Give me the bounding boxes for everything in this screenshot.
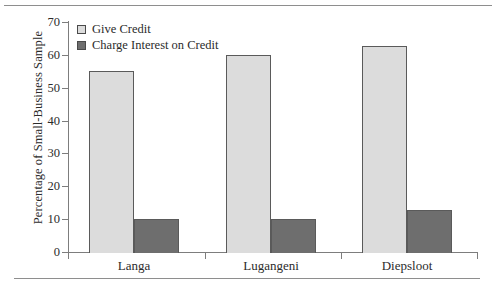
- x-axis-category-label: Lugangeni: [226, 258, 316, 274]
- y-axis-tick-label: 0: [36, 246, 60, 259]
- y-axis-tick-label: 10: [36, 213, 60, 226]
- bar-give-credit-lugangeni: [226, 55, 271, 253]
- y-axis-tick: [62, 153, 69, 154]
- y-axis-tick-label: 30: [36, 147, 60, 160]
- y-axis-tick: [62, 186, 69, 187]
- x-axis-tick: [477, 253, 478, 259]
- x-axis-category-label: Diepsloot: [362, 258, 452, 274]
- y-axis-tick: [62, 121, 69, 122]
- legend-label: Give Credit: [92, 22, 151, 37]
- chart-legend: Give Credit Charge Interest on Credit: [77, 22, 218, 54]
- bar-charge-interest-lugangeni: [271, 219, 316, 253]
- dark-gray-swatch-icon: [77, 41, 86, 50]
- y-axis-tick-label: 20: [36, 180, 60, 193]
- y-axis-tick: [62, 55, 69, 56]
- x-axis-tick: [341, 253, 342, 259]
- bar-charge-interest-langa: [134, 219, 179, 253]
- y-axis-tick-label: 50: [36, 82, 60, 95]
- bar-charge-interest-diepsloot: [407, 210, 452, 253]
- y-axis-tick-label: 40: [36, 115, 60, 128]
- y-axis-tick: [62, 219, 69, 220]
- legend-item-charge-interest-on-credit: Charge Interest on Credit: [77, 38, 218, 53]
- legend-label: Charge Interest on Credit: [92, 38, 218, 53]
- bar-give-credit-langa: [89, 71, 134, 253]
- bar-chart: Percentage of Small-Business Sample 0 10…: [0, 0, 496, 293]
- legend-item-give-credit: Give Credit: [77, 22, 218, 37]
- x-axis-tick: [68, 253, 69, 259]
- y-axis-tick: [62, 22, 69, 23]
- y-axis-tick: [62, 88, 69, 89]
- y-axis-tick-label: 70: [36, 16, 60, 29]
- bar-give-credit-diepsloot: [362, 46, 407, 253]
- light-gray-swatch-icon: [77, 25, 86, 34]
- x-axis-category-label: Langa: [89, 258, 179, 274]
- x-axis-tick: [205, 253, 206, 259]
- y-axis-tick-label: 60: [36, 49, 60, 62]
